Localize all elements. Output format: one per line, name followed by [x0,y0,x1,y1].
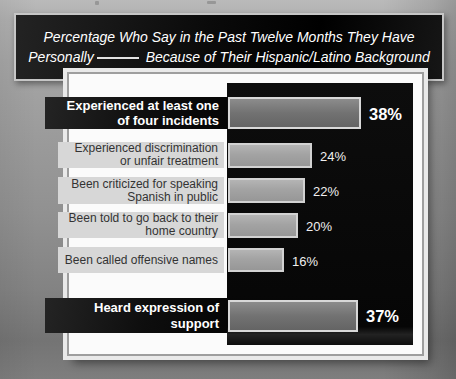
bar-offensive-names [228,248,284,272]
category-chip-discrimination: Experienced discrimination or unfair tre… [58,142,224,168]
bar-expression-of-support [228,300,358,332]
value-label-at-least-one-incident: 38% [369,105,402,124]
bar-at-least-one-incident [228,97,361,129]
category-chip-go-back: Been told to go back to their home count… [58,212,224,238]
category-chip-criticized-spanish: Been criticized for speaking Spanish in … [58,177,224,204]
background-artifact [207,1,216,4]
value-label-offensive-names: 16% [292,254,318,269]
category-label-line: Spanish in public [127,191,218,204]
bar-go-back [228,213,298,238]
category-label-line: of four incidents [117,113,219,129]
category-label-line: Heard expression of [94,300,219,316]
background-artifact [95,1,99,5]
category-label-line: Been criticized for speaking [71,178,218,191]
slide-title-banner: Percentage Who Say in the Past Twelve Mo… [14,13,444,81]
bar-discrimination [228,143,312,168]
category-label-line: home country [145,225,218,238]
value-label-discrimination: 24% [320,149,346,164]
category-label-line: or unfair treatment [120,155,218,168]
fill-in-blank-line [97,57,139,59]
title-line-2-prefix: Personally [28,49,93,65]
title-line-1: Percentage Who Say in the Past Twelve Mo… [16,27,442,47]
title-line-2-suffix: Because of Their Hispanic/Latino Backgro… [146,49,430,65]
value-label-criticized-spanish: 22% [313,184,339,199]
category-label-line: Been called offensive names [65,254,218,267]
title-line-2: PersonallyBecause of Their Hispanic/Lati… [16,47,442,67]
value-label-expression-of-support: 37% [366,307,399,326]
bar-criticized-spanish [228,178,305,203]
category-label-line: Experienced at least one [67,98,219,114]
category-label-line: support [171,316,219,332]
value-label-go-back: 20% [306,219,332,234]
slide-photo: Percentage Who Say in the Past Twelve Mo… [0,0,456,379]
category-chip-at-least-one-incident: Experienced at least one of four inciden… [45,97,227,129]
category-chip-offensive-names: Been called offensive names [58,247,224,273]
category-chip-expression-of-support: Heard expression of support [45,298,227,333]
